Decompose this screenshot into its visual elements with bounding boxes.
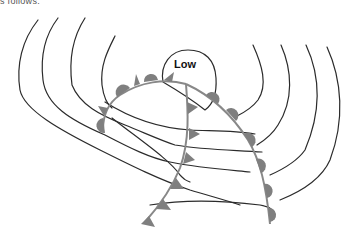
warm-front xyxy=(186,84,276,224)
isobars-east xyxy=(237,45,340,200)
isobar xyxy=(237,45,263,116)
isobar xyxy=(270,45,317,175)
isobar xyxy=(42,18,250,172)
semicircle-symbol xyxy=(256,159,266,173)
weather-map-diagram: Low xyxy=(0,0,355,248)
triangle-symbol xyxy=(134,74,140,86)
isobar xyxy=(257,45,290,145)
low-label: Low xyxy=(174,58,196,70)
triangle-symbol xyxy=(141,216,155,227)
occluded-front xyxy=(96,72,186,133)
semicircle-symbol xyxy=(144,74,158,82)
isobar xyxy=(102,36,115,108)
isobar xyxy=(19,20,240,205)
